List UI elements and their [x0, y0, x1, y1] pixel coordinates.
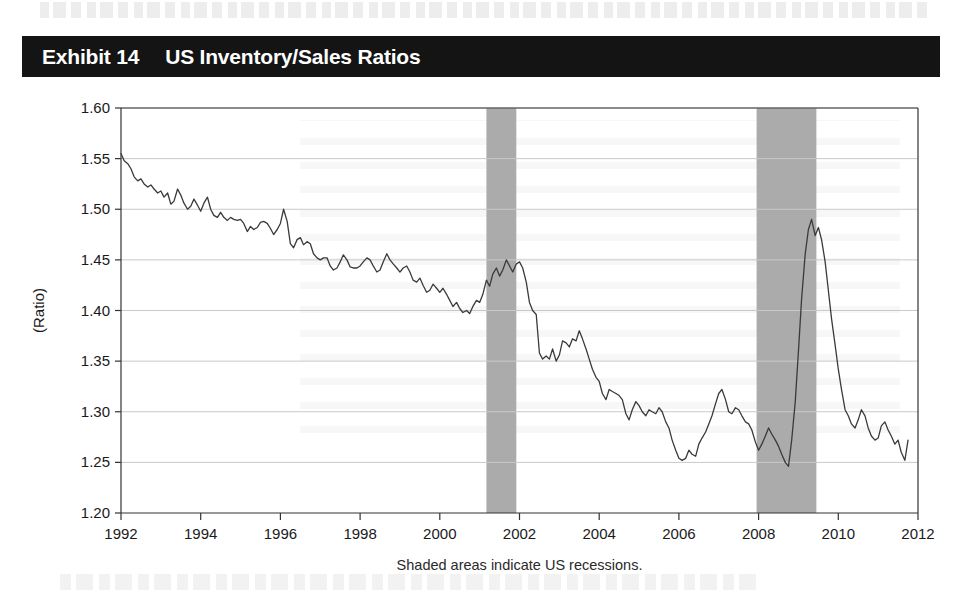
y-axis-ticks: 1.201.251.301.351.401.451.501.551.60 — [81, 99, 121, 521]
x-axis-tick-label: 1994 — [184, 525, 217, 542]
y-axis-tick-label: 1.40 — [81, 302, 110, 319]
x-axis-tick-label: 1992 — [104, 525, 137, 542]
y-axis-tick-label: 1.25 — [81, 453, 110, 470]
y-axis-title: (Ratio) — [30, 288, 47, 333]
chart-figure: 1.201.251.301.351.401.451.501.551.60 199… — [0, 84, 967, 598]
x-axis-tick-label: 2004 — [583, 525, 616, 542]
exhibit-title: US Inventory/Sales Ratios — [165, 45, 420, 69]
x-axis-tick-label: 2002 — [503, 525, 536, 542]
x-axis-tick-label: 1996 — [264, 525, 297, 542]
x-axis-tick-label: 2000 — [423, 525, 456, 542]
y-axis-tick-label: 1.55 — [81, 150, 110, 167]
y-axis-tick-label: 1.30 — [81, 403, 110, 420]
y-axis-tick-label: 1.50 — [81, 200, 110, 217]
exhibit-title-bar: Exhibit 14 US Inventory/Sales Ratios — [22, 36, 940, 77]
page-bleed-through-top — [40, 2, 930, 18]
y-axis-tick-label: 1.45 — [81, 251, 110, 268]
x-axis-tick-label: 1998 — [343, 525, 376, 542]
inventory-sales-ratio-chart: 1.201.251.301.351.401.451.501.551.60 199… — [0, 84, 967, 598]
x-axis-tick-label: 2010 — [822, 525, 855, 542]
y-axis-tick-label: 1.60 — [81, 99, 110, 116]
x-axis-tick-label: 2008 — [742, 525, 775, 542]
x-axis-tick-label: 2006 — [662, 525, 695, 542]
y-axis-tick-label: 1.20 — [81, 504, 110, 521]
chart-note: Shaded areas indicate US recessions. — [397, 557, 643, 573]
y-axis-tick-label: 1.35 — [81, 352, 110, 369]
x-axis-ticks: 1992199419961998200020022004200620082010… — [104, 513, 934, 542]
x-axis-tick-label: 2012 — [901, 525, 934, 542]
exhibit-number: Exhibit 14 — [42, 45, 139, 69]
